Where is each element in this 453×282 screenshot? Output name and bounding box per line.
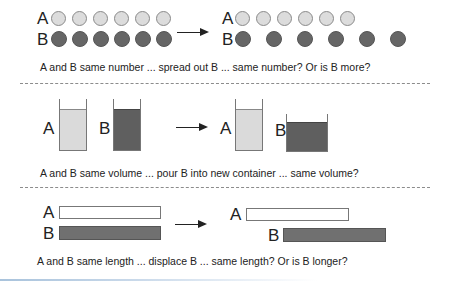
label-a: A — [220, 120, 231, 137]
label-a: A — [43, 204, 54, 221]
light-dot — [51, 11, 66, 26]
light-dot — [319, 11, 334, 26]
light-dot — [156, 11, 171, 26]
light-dot — [93, 11, 108, 26]
container-a-before — [59, 99, 87, 151]
dark-dot — [235, 31, 251, 47]
dark-dot — [297, 31, 313, 47]
label-a: A — [230, 206, 241, 223]
container-a-after — [235, 99, 263, 151]
stick-b-after-displaced — [283, 228, 386, 242]
label-a: A — [222, 10, 233, 27]
section-divider — [20, 187, 430, 188]
section-divider — [20, 83, 430, 84]
number-caption: A and B same number ... spread out B ...… — [40, 61, 370, 73]
light-dot — [277, 11, 292, 26]
liquid-a — [60, 109, 86, 150]
light-dot — [135, 11, 150, 26]
dark-dot — [135, 31, 151, 47]
dark-dot — [51, 31, 67, 47]
dark-dot — [114, 31, 130, 47]
dark-dot — [359, 31, 375, 47]
length-caption: A and B same length ... displace B ... s… — [37, 255, 348, 267]
dark-dot — [93, 31, 109, 47]
label-b: B — [37, 31, 48, 48]
stick-a-before — [59, 206, 161, 219]
page-edge-line — [0, 279, 453, 281]
stick-a-after — [246, 208, 349, 221]
dark-dot — [72, 31, 88, 47]
label-b: B — [268, 227, 279, 244]
light-dot — [256, 11, 271, 26]
dark-dot — [328, 31, 344, 47]
light-dot — [114, 11, 129, 26]
label-b: B — [43, 225, 54, 242]
label-a: A — [43, 120, 54, 137]
liquid-b — [114, 109, 140, 150]
liquid-a — [236, 109, 262, 150]
light-dot — [72, 11, 87, 26]
label-b: B — [222, 31, 233, 48]
liquid-b — [287, 122, 327, 151]
right-arrow-icon — [175, 224, 205, 225]
right-arrow-icon — [177, 32, 207, 33]
light-dot — [340, 11, 355, 26]
dark-dot — [156, 31, 172, 47]
volume-caption: A and B same volume ... pour B into new … — [40, 167, 359, 179]
label-a: A — [37, 10, 48, 27]
light-dot — [235, 11, 250, 26]
container-b-after-wide — [286, 114, 328, 152]
light-dot — [298, 11, 313, 26]
dark-dot — [266, 31, 282, 47]
right-arrow-icon — [176, 127, 206, 128]
container-b-before — [113, 99, 141, 151]
label-b: B — [275, 122, 286, 139]
label-b: B — [99, 120, 110, 137]
dark-dot — [390, 31, 406, 47]
stick-b-before — [59, 226, 161, 240]
